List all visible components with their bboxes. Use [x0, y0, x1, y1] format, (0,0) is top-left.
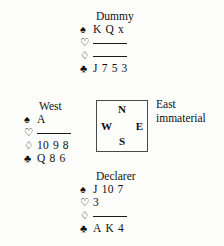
declarer-title: Declarer	[96, 170, 136, 183]
card-rank: 6	[59, 152, 65, 165]
dummy-club-cards: J753	[93, 62, 128, 75]
card-rank: K	[93, 23, 102, 36]
card-rank: 5	[112, 62, 118, 75]
dummy-diamond-cards	[93, 49, 127, 62]
card-rank: 10	[102, 183, 114, 196]
void-dash	[93, 56, 127, 57]
card-rank: 7	[102, 62, 108, 75]
card-rank: A	[37, 113, 46, 126]
declarer-diamond-cards	[93, 209, 127, 222]
declarer-spade-row: ♠ J107	[80, 183, 136, 196]
card-rank: Q	[37, 152, 46, 165]
club-icon: ♣	[80, 62, 93, 75]
void-dash	[93, 216, 127, 217]
spade-icon: ♠	[80, 23, 93, 36]
west-title: West	[39, 100, 71, 113]
card-rank: 3	[93, 196, 99, 209]
west-diamond-cards: 1098	[37, 139, 69, 152]
heart-icon: ♡	[80, 196, 93, 209]
void-dash	[93, 43, 127, 44]
spade-icon: ♠	[80, 183, 93, 196]
dummy-spade-row: ♠ KQx	[80, 23, 134, 36]
declarer-club-row: ♣ AK4	[80, 222, 136, 235]
card-rank: 3	[122, 62, 128, 75]
dummy-hand: Dummy ♠ KQx ♡ ♢ ♣ J753	[80, 10, 134, 75]
dummy-heart-row: ♡	[80, 36, 134, 49]
compass-box: N W E S	[96, 100, 148, 152]
diamond-icon: ♢	[80, 209, 93, 222]
dummy-heart-cards	[93, 36, 127, 49]
compass-west-label: W	[101, 121, 112, 132]
east-note: immaterial	[156, 112, 206, 126]
east-hand: East immaterial	[156, 98, 206, 125]
west-hand: West ♠ A ♡ ♢ 1098 ♣ Q86	[24, 100, 71, 165]
spade-icon: ♠	[24, 113, 37, 126]
diamond-icon: ♢	[24, 139, 37, 152]
compass-north-label: N	[118, 104, 126, 115]
card-rank: 4	[118, 222, 124, 235]
dummy-club-row: ♣ J753	[80, 62, 134, 75]
west-heart-row: ♡	[24, 126, 71, 139]
card-rank: x	[118, 23, 124, 36]
west-spade-cards: A	[37, 113, 46, 126]
card-rank: 8	[50, 152, 56, 165]
card-rank: 7	[118, 183, 124, 196]
club-icon: ♣	[80, 222, 93, 235]
heart-icon: ♡	[80, 36, 93, 49]
dummy-diamond-row: ♢	[80, 49, 134, 62]
declarer-diamond-row: ♢	[80, 209, 136, 222]
club-icon: ♣	[24, 152, 37, 165]
card-rank: 8	[63, 139, 69, 152]
west-diamond-row: ♢ 1098	[24, 139, 71, 152]
declarer-club-cards: AK4	[93, 222, 124, 235]
card-rank: K	[106, 222, 115, 235]
declarer-heart-cards: 3	[93, 196, 99, 209]
diamond-icon: ♢	[80, 49, 93, 62]
east-title: East	[156, 98, 206, 112]
card-rank: A	[93, 222, 102, 235]
card-rank: 10	[37, 139, 49, 152]
declarer-spade-cards: J107	[93, 183, 124, 196]
card-rank: J	[93, 183, 98, 196]
card-rank: Q	[106, 23, 115, 36]
void-dash	[37, 133, 71, 134]
card-rank: J	[93, 62, 98, 75]
heart-icon: ♡	[24, 126, 37, 139]
compass-east-label: E	[136, 121, 143, 132]
declarer-hand: Declarer ♠ J107 ♡ 3 ♢ ♣ AK4	[80, 170, 136, 235]
dummy-spade-cards: KQx	[93, 23, 124, 36]
west-spade-row: ♠ A	[24, 113, 71, 126]
west-club-row: ♣ Q86	[24, 152, 71, 165]
declarer-heart-row: ♡ 3	[80, 196, 136, 209]
west-club-cards: Q86	[37, 152, 65, 165]
compass-south-label: S	[119, 136, 125, 147]
bridge-hand-diagram: Dummy ♠ KQx ♡ ♢ ♣ J753 West ♠ A ♡	[0, 0, 224, 246]
card-rank: 9	[53, 139, 59, 152]
dummy-title: Dummy	[96, 10, 134, 23]
west-heart-cards	[37, 126, 71, 139]
